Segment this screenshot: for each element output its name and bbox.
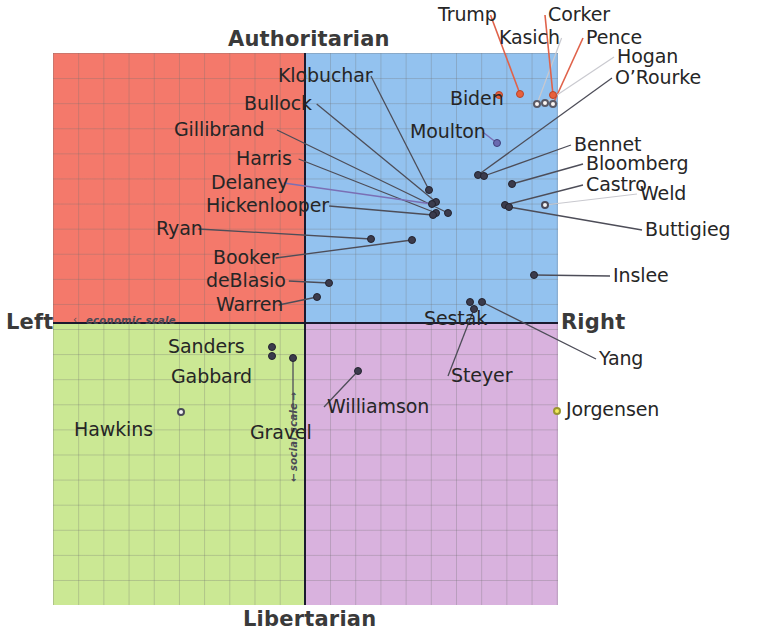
point-ryan[interactable]: [367, 235, 375, 243]
label-yang: Yang: [599, 349, 643, 368]
point-williamson[interactable]: [354, 367, 362, 375]
point-corker[interactable]: [549, 91, 557, 99]
label-orourke: O’Rourke: [615, 68, 701, 87]
point-bloomberg[interactable]: [508, 180, 516, 188]
label-inslee: Inslee: [613, 266, 669, 285]
label-sestak: Sestak: [424, 309, 487, 328]
point-trump[interactable]: [516, 90, 524, 98]
axis-label-authoritarian: Authoritarian: [228, 27, 390, 51]
label-klobuchar: Klobuchar: [278, 66, 373, 85]
label-trump: Trump: [438, 5, 497, 24]
label-moulton: Moulton: [410, 122, 486, 141]
label-booker: Booker: [213, 248, 279, 267]
point-pence[interactable]: [549, 100, 557, 108]
label-castro: Castro: [586, 175, 647, 194]
label-ryan: Ryan: [156, 219, 203, 238]
label-buttigieg: Buttigieg: [645, 220, 730, 239]
point-booker[interactable]: [408, 236, 416, 244]
label-biden: Biden: [450, 89, 504, 108]
label-jorgensen: Jorgensen: [566, 400, 659, 419]
point-kasich[interactable]: [533, 100, 541, 108]
point-buttigieg[interactable]: [505, 203, 513, 211]
political-compass-chart: Authoritarian Libertarian Left Right eco…: [0, 0, 765, 630]
point-bennet[interactable]: [480, 172, 488, 180]
point-weld[interactable]: [541, 201, 549, 209]
point-sanders[interactable]: [268, 343, 276, 351]
point-gravel[interactable]: [289, 354, 297, 362]
label-corker: Corker: [548, 5, 610, 24]
point-gabbard[interactable]: [268, 352, 276, 360]
economic-arrow-left: ‹: [73, 314, 77, 325]
label-hogan: Hogan: [617, 47, 678, 66]
label-williamson: Williamson: [327, 397, 429, 416]
point-delaney[interactable]: [428, 200, 436, 208]
point-hogan[interactable]: [541, 99, 549, 107]
point-yang[interactable]: [478, 298, 486, 306]
label-deblasio: deBlasio: [206, 271, 286, 290]
axis-label-left: Left: [6, 310, 54, 334]
economic-scale-label: economic scale: [86, 315, 176, 326]
label-hickenlooper: Hickenlooper: [206, 196, 329, 215]
label-steyer: Steyer: [451, 366, 512, 385]
label-bloomberg: Bloomberg: [586, 154, 688, 173]
point-hickenlooper[interactable]: [429, 211, 437, 219]
label-bullock: Bullock: [244, 94, 312, 113]
label-gillibrand: Gillibrand: [174, 120, 264, 139]
point-warren[interactable]: [313, 293, 321, 301]
point-hawkins[interactable]: [177, 408, 185, 416]
label-sanders: Sanders: [168, 337, 245, 356]
label-kasich: Kasich: [499, 28, 560, 47]
leader-weld: [545, 194, 637, 205]
social-axis-line: [304, 53, 306, 605]
label-hawkins: Hawkins: [74, 420, 153, 439]
label-weld: Weld: [640, 184, 686, 203]
label-warren: Warren: [216, 295, 283, 314]
point-jorgensen[interactable]: [553, 407, 561, 415]
axis-label-right: Right: [561, 310, 625, 334]
label-delaney: Delaney: [211, 173, 289, 192]
axis-label-libertarian: Libertarian: [243, 607, 376, 630]
economic-arrow-right: ›: [154, 314, 158, 325]
point-inslee[interactable]: [530, 271, 538, 279]
label-gravel: Gravel: [250, 423, 312, 442]
label-gabbard: Gabbard: [171, 367, 252, 386]
point-klobuchar[interactable]: [425, 186, 433, 194]
point-gillibrand[interactable]: [444, 209, 452, 217]
quadrant-libertarian-right: [305, 323, 558, 605]
point-deblasio[interactable]: [325, 279, 333, 287]
label-harris: Harris: [236, 149, 292, 168]
point-moulton[interactable]: [493, 139, 501, 147]
